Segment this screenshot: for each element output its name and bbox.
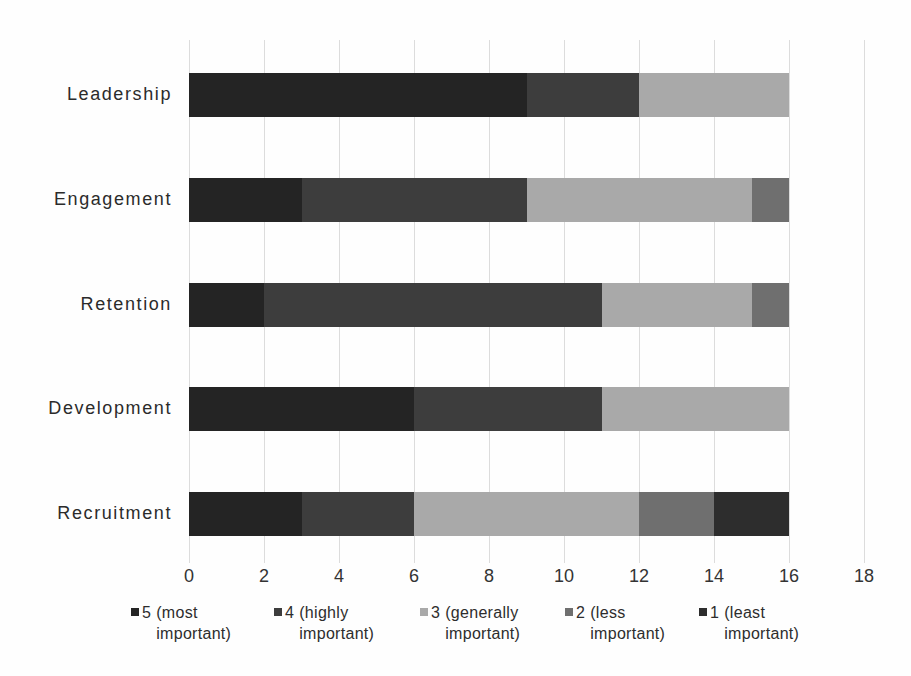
category-label-recruitment: Recruitment (28, 503, 172, 524)
bar-segment-development-3 (602, 387, 790, 431)
bar-segment-engagement-5 (189, 178, 302, 222)
bar-segment-recruitment-1 (714, 492, 789, 536)
legend-swatch-icon (131, 608, 139, 616)
legend-swatch-icon (420, 608, 428, 616)
legend-swatch-icon (699, 608, 707, 616)
bar-segment-leadership-5 (189, 73, 527, 117)
x-tick-label-2: 2 (244, 566, 284, 587)
legend-item-5: 5(mostimportant) (131, 602, 231, 644)
legend-rank-number: 5 (142, 602, 151, 623)
bar-row-engagement (189, 178, 789, 222)
x-tick-label-14: 14 (694, 566, 734, 587)
legend-label: (highlyimportant) (299, 602, 374, 644)
legend-label-line1: (highly (299, 602, 374, 623)
legend-item-1: 1(leastimportant) (699, 602, 799, 644)
legend-rank-number: 1 (710, 602, 719, 623)
legend-label-line2: important) (299, 623, 374, 644)
x-tick-label-6: 6 (394, 566, 434, 587)
bar-segment-recruitment-3 (414, 492, 639, 536)
x-tick-label-8: 8 (469, 566, 509, 587)
x-tick-label-16: 16 (769, 566, 809, 587)
legend-label-line1: (least (724, 602, 799, 623)
bar-segment-development-4 (414, 387, 602, 431)
bar-segment-leadership-3 (639, 73, 789, 117)
bar-row-leadership (189, 73, 789, 117)
category-label-engagement: Engagement (28, 189, 172, 210)
bar-segment-recruitment-2 (639, 492, 714, 536)
gridline-x16 (789, 40, 790, 563)
bar-segment-retention-4 (264, 283, 602, 327)
legend-swatch-icon (274, 608, 282, 616)
x-tick-label-10: 10 (544, 566, 584, 587)
legend-swatch-icon (565, 608, 573, 616)
legend-item-4: 4(highlyimportant) (274, 602, 374, 644)
legend-label: (generallyimportant) (445, 602, 520, 644)
legend-label-line2: important) (724, 623, 799, 644)
legend-label-line2: important) (156, 623, 231, 644)
bar-row-retention (189, 283, 789, 327)
legend-item-2: 2(lessimportant) (565, 602, 665, 644)
bar-segment-engagement-3 (527, 178, 752, 222)
bar-row-recruitment (189, 492, 789, 536)
legend-label-line1: (generally (445, 602, 520, 623)
x-tick-label-0: 0 (169, 566, 209, 587)
x-tick-label-18: 18 (844, 566, 884, 587)
legend-rank-number: 4 (285, 602, 294, 623)
x-tick-label-4: 4 (319, 566, 359, 587)
bar-segment-engagement-4 (302, 178, 527, 222)
bar-segment-engagement-2 (752, 178, 790, 222)
legend-label-line1: (most (156, 602, 231, 623)
legend-label: (leastimportant) (724, 602, 799, 644)
legend-rank-number: 3 (431, 602, 440, 623)
bar-row-development (189, 387, 789, 431)
bar-segment-development-5 (189, 387, 414, 431)
category-label-leadership: Leadership (28, 84, 172, 105)
bar-segment-retention-5 (189, 283, 264, 327)
bar-segment-leadership-4 (527, 73, 640, 117)
bar-segment-retention-2 (752, 283, 790, 327)
x-tick-label-12: 12 (619, 566, 659, 587)
legend-label: (lessimportant) (590, 602, 665, 644)
bar-segment-retention-3 (602, 283, 752, 327)
category-label-retention: Retention (28, 294, 172, 315)
legend-label: (mostimportant) (156, 602, 231, 644)
stacked-bar-chart: LeadershipEngagementRetentionDevelopment… (0, 0, 911, 676)
legend-label-line2: important) (445, 623, 520, 644)
bar-segment-recruitment-5 (189, 492, 302, 536)
bar-segment-recruitment-4 (302, 492, 415, 536)
legend-label-line2: important) (590, 623, 665, 644)
legend-item-3: 3(generallyimportant) (420, 602, 520, 644)
legend-rank-number: 2 (576, 602, 585, 623)
gridline-x18 (864, 40, 865, 563)
legend-label-line1: (less (590, 602, 665, 623)
category-label-development: Development (28, 398, 172, 419)
